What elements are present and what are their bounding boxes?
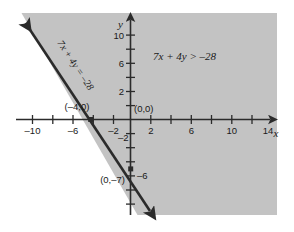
inequality-label: 7x + 4y > –28	[153, 50, 217, 62]
x-tick-label--10: –10	[25, 125, 41, 136]
point-marker-y-intercept	[128, 166, 133, 171]
y-tick-label-6: 6	[119, 58, 124, 69]
y-tick-label-2: 2	[119, 86, 124, 97]
inequality-graph-figure: –10 –6 –2 2 6 10 14 10 6 2 –2 –6 y x 7x …	[0, 0, 294, 232]
x-axis-label: x	[273, 127, 279, 139]
y-intercept-point-label: (0,–7)	[100, 174, 125, 185]
x-tick-label-2: 2	[148, 125, 153, 136]
y-tick-label-10: 10	[113, 30, 124, 41]
x-tick-label--6: –6	[68, 125, 79, 136]
x-tick-label-14: 14	[263, 125, 274, 136]
y-axis-label: y	[117, 18, 123, 30]
coordinate-plane-svg: –10 –6 –2 2 6 10 14 10 6 2 –2 –6 y x 7x …	[0, 0, 294, 232]
x-tick-label-6: 6	[189, 125, 194, 136]
origin-point-label: (0,0)	[134, 103, 154, 114]
x-tick-label-10: 10	[227, 125, 238, 136]
point-marker-x-intercept	[88, 117, 93, 122]
y-tick-label--6: –6	[137, 170, 148, 181]
x-intercept-point-label: (–4,0)	[65, 101, 90, 112]
y-tick-label--2: –2	[118, 132, 129, 143]
